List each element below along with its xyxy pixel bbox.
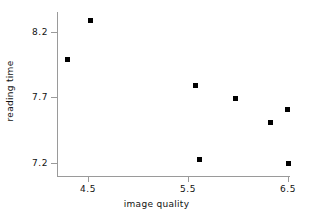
data-point xyxy=(232,95,239,102)
scatter-plot-figure: 8.2 7.7 7.2 4.5 5.5 6.5 image quality re… xyxy=(0,0,313,221)
x-axis-title: image quality xyxy=(0,199,313,209)
y-axis-tick-7.7 xyxy=(51,97,57,98)
data-point xyxy=(267,119,274,126)
y-axis-tick-label-2: 7.2 xyxy=(20,158,48,168)
data-point xyxy=(285,160,292,167)
y-axis-line xyxy=(57,12,58,176)
x-axis-tick-5.5 xyxy=(188,176,189,182)
data-point xyxy=(196,156,203,163)
data-point xyxy=(87,17,94,24)
y-axis-tick-7.2 xyxy=(51,163,57,164)
y-axis-title: reading time xyxy=(2,0,18,182)
x-axis-tick-6.5 xyxy=(288,176,289,182)
y-axis-tick-label-1: 7.7 xyxy=(20,92,48,102)
x-axis-tick-4.5 xyxy=(88,176,89,182)
data-point xyxy=(192,82,199,89)
data-point xyxy=(284,106,291,113)
x-axis-tick-label-2: 6.5 xyxy=(268,184,308,194)
x-axis-line xyxy=(57,176,290,177)
x-axis-tick-label-1: 5.5 xyxy=(168,184,208,194)
data-point xyxy=(64,56,71,63)
x-axis-tick-label-0: 4.5 xyxy=(68,184,108,194)
y-axis-tick-label-0: 8.2 xyxy=(20,27,48,37)
y-axis-title-text: reading time xyxy=(5,61,15,122)
y-axis-tick-8.2 xyxy=(51,32,57,33)
